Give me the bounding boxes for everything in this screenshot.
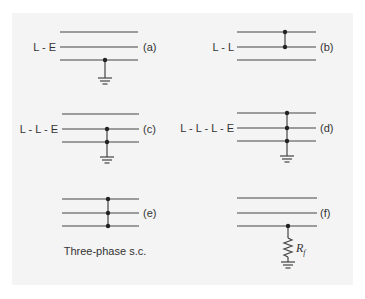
panel-d-tag: (d) <box>320 122 333 134</box>
panel-e-conductors <box>62 199 139 226</box>
panel-e-tag: (e) <box>143 207 156 219</box>
panel-d-conductors <box>237 113 316 162</box>
fault-diagram: L - E L - L L - L - E L - L - L - E (a) … <box>0 0 365 299</box>
panel-c-conductors <box>62 114 139 163</box>
panel-c-tag: (c) <box>143 123 156 135</box>
panel-b-conductors <box>237 32 316 60</box>
resistor-icon <box>284 238 292 257</box>
panel-b-tag: (b) <box>320 41 333 53</box>
panel-d-label: L - L - L - E <box>180 122 234 134</box>
panel-a-conductors <box>60 32 138 84</box>
resistor-label: Rf <box>295 241 307 257</box>
panel-f-tag: (f) <box>320 207 330 219</box>
panel-a-tag: (a) <box>143 41 156 53</box>
panel-c-label: L - L - E <box>20 123 58 135</box>
panel-a-label: L - E <box>33 41 56 53</box>
panel-b-label: L - L <box>212 41 234 53</box>
panel-e-caption: Three-phase s.c. <box>64 245 147 257</box>
panel-f-conductors <box>237 198 317 268</box>
